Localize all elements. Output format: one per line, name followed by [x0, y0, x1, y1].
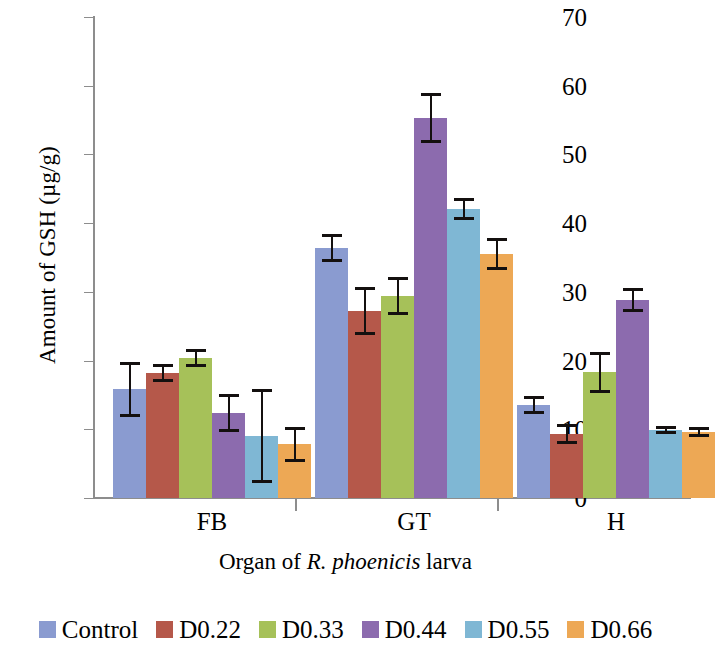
- error-bar-FB-D0.44: [228, 394, 230, 432]
- error-bar-cap: [252, 389, 272, 392]
- x-axis-title: Organ of R. phoenicis larva: [0, 549, 691, 575]
- error-bar-cap: [656, 431, 676, 434]
- y-axis-tick-label: 30: [527, 279, 587, 304]
- x-axis-group-label-H: H: [556, 508, 676, 536]
- legend-item-D0.66[interactable]: D0.66: [567, 617, 652, 642]
- legend-label: Control: [62, 617, 138, 642]
- bar-GT-D0.66: [480, 254, 513, 498]
- error-bar-cap: [153, 379, 173, 382]
- legend-swatch-icon: [567, 621, 584, 638]
- y-axis-tick-label: 50: [527, 142, 587, 167]
- error-bar-cap: [689, 434, 709, 437]
- legend-label: D0.55: [488, 617, 550, 642]
- error-bar-cap: [623, 309, 643, 312]
- y-axis-tick: [84, 154, 93, 155]
- error-bar-cap: [322, 259, 342, 262]
- error-bar-cap: [355, 287, 375, 290]
- x-axis-title-suffix: larva: [420, 549, 472, 574]
- error-bar-cap: [590, 352, 610, 355]
- y-axis-tick-label: 60: [527, 73, 587, 98]
- error-bar-FB-D0.66: [294, 427, 296, 463]
- error-bar-GT-D0.44: [430, 93, 432, 144]
- error-bar-H-D0.33: [599, 352, 601, 393]
- y-axis-tick: [84, 86, 93, 87]
- bar-H-D0.55: [649, 430, 682, 498]
- error-bar-cap: [421, 140, 441, 143]
- error-bar-cap: [454, 217, 474, 220]
- error-bar-cap: [487, 238, 507, 241]
- legend-swatch-icon: [39, 621, 56, 638]
- legend-label: D0.66: [590, 617, 652, 642]
- bar-FB-D0.22: [146, 373, 179, 498]
- y-axis-tick: [84, 292, 93, 293]
- legend-label: D0.22: [179, 617, 241, 642]
- bar-GT-Control: [315, 248, 348, 498]
- legend-swatch-icon: [362, 621, 379, 638]
- y-axis-tick: [84, 429, 93, 430]
- bar-H-D0.66: [682, 432, 715, 498]
- error-bar-cap: [285, 459, 305, 462]
- error-bar-cap: [285, 427, 305, 430]
- error-bar-FB-D0.55: [261, 389, 263, 482]
- legend-item-Control[interactable]: Control: [39, 617, 138, 642]
- legend-swatch-icon: [259, 621, 276, 638]
- error-bar-cap: [219, 429, 239, 432]
- bar-H-Control: [517, 405, 550, 498]
- y-axis-tick: [84, 498, 93, 499]
- error-bar-cap: [590, 390, 610, 393]
- legend-label: D0.33: [282, 617, 344, 642]
- bar-GT-D0.33: [381, 296, 414, 498]
- plot-area: 010203040506070: [93, 17, 691, 498]
- x-axis-title-species: R. phoenicis: [307, 549, 421, 574]
- error-bar-GT-D0.66: [496, 238, 498, 270]
- error-bar-cap: [252, 480, 272, 483]
- error-bar-cap: [120, 414, 140, 417]
- y-axis-title: Amount of GSH (µg/g): [35, 95, 61, 415]
- error-bar-cap: [186, 349, 206, 352]
- error-bar-cap: [322, 234, 342, 237]
- x-axis-group-separator: [295, 498, 297, 511]
- error-bar-cap: [454, 198, 474, 201]
- y-axis-tick-label: 20: [527, 348, 587, 373]
- chart-legend: ControlD0.22D0.33D0.44D0.55D0.66: [0, 617, 691, 642]
- bar-FB-D0.33: [179, 358, 212, 498]
- error-bar-cap: [689, 427, 709, 430]
- bar-GT-D0.44: [414, 118, 447, 498]
- legend-swatch-icon: [465, 621, 482, 638]
- bar-GT-D0.22: [348, 311, 381, 498]
- error-bar-cap: [557, 424, 577, 427]
- bar-H-D0.44: [616, 300, 649, 498]
- error-bar-cap: [524, 396, 544, 399]
- error-bar-cap: [421, 93, 441, 96]
- error-bar-GT-D0.33: [397, 277, 399, 315]
- error-bar-FB-Control: [129, 362, 131, 417]
- bar-GT-D0.55: [447, 209, 480, 498]
- error-bar-cap: [623, 288, 643, 291]
- error-bar-cap: [524, 411, 544, 414]
- y-axis-tick-label: 40: [527, 211, 587, 236]
- legend-item-D0.33[interactable]: D0.33: [259, 617, 344, 642]
- legend-label: D0.44: [385, 617, 447, 642]
- y-axis-tick: [84, 361, 93, 362]
- error-bar-cap: [186, 364, 206, 367]
- error-bar-cap: [656, 426, 676, 429]
- legend-swatch-icon: [156, 621, 173, 638]
- legend-item-D0.55[interactable]: D0.55: [465, 617, 550, 642]
- error-bar-GT-Control: [331, 234, 333, 261]
- error-bar-GT-D0.22: [364, 287, 366, 335]
- x-axis-group-label-GT: GT: [354, 508, 474, 536]
- error-bar-cap: [355, 332, 375, 335]
- y-axis-tick: [84, 223, 93, 224]
- legend-item-D0.22[interactable]: D0.22: [156, 617, 241, 642]
- error-bar-cap: [388, 312, 408, 315]
- error-bar-cap: [557, 441, 577, 444]
- x-axis-group-label-FB: FB: [152, 508, 272, 536]
- error-bar-cap: [120, 362, 140, 365]
- error-bar-cap: [153, 364, 173, 367]
- x-axis-title-prefix: Organ of: [219, 549, 307, 574]
- x-axis-group-separator: [497, 498, 499, 511]
- y-axis-tick-label: 70: [527, 5, 587, 30]
- legend-item-D0.44[interactable]: D0.44: [362, 617, 447, 642]
- error-bar-cap: [388, 277, 408, 280]
